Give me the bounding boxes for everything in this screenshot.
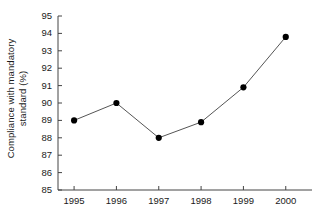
data-markers [71, 34, 289, 141]
axis-ticks [58, 16, 286, 190]
plot-area [0, 0, 322, 219]
data-line-series-1 [74, 37, 286, 138]
data-point-marker [156, 135, 162, 141]
chart-figure: Compliance with mandatory standard (%) 8… [0, 0, 322, 219]
data-point-marker [198, 119, 204, 125]
axes [58, 16, 312, 190]
data-point-marker [113, 100, 119, 106]
data-point-marker [283, 34, 289, 40]
data-point-marker [240, 84, 246, 90]
axis-spines [58, 16, 312, 190]
data-point-marker [71, 117, 77, 123]
